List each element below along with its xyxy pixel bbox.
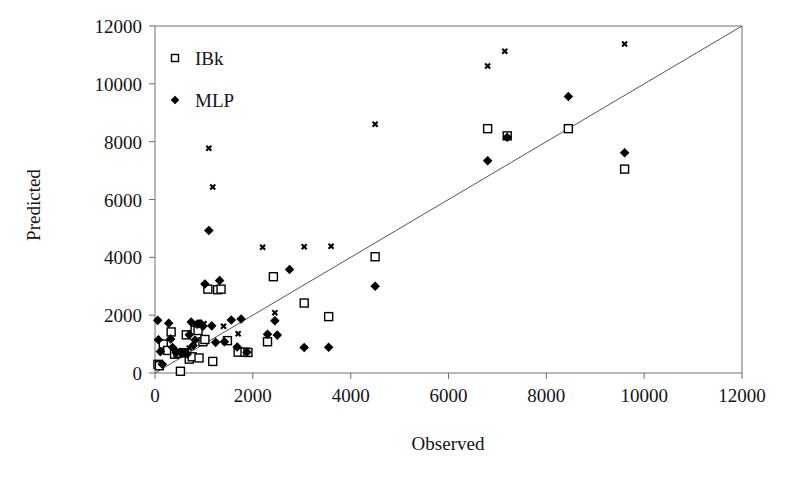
x-tick-label: 4000 [332, 385, 370, 406]
data-point-open-square [176, 367, 184, 375]
x-tick-label: 8000 [527, 385, 565, 406]
legend-label-MLP: MLP [195, 90, 234, 111]
y-tick-label: 2000 [104, 305, 142, 326]
y-tick-label: 6000 [104, 190, 142, 211]
data-point-open-square [195, 354, 203, 362]
data-point-open-square [484, 125, 492, 133]
legend-label-IBk: IBk [195, 48, 224, 69]
x-tick-label: 12000 [718, 385, 766, 406]
data-point-open-square [201, 335, 209, 343]
data-point-open-square [325, 313, 333, 321]
x-tick-label: 0 [150, 385, 160, 406]
legend-marker-IBk [172, 55, 179, 62]
plot-background [0, 0, 812, 482]
x-tick-label: 2000 [234, 385, 272, 406]
data-point-open-square [209, 357, 217, 365]
data-point-open-square [269, 273, 277, 281]
data-point-open-square [371, 253, 379, 261]
y-tick-label: 4000 [104, 247, 142, 268]
y-tick-label: 12000 [95, 16, 143, 37]
data-point-open-square [300, 299, 308, 307]
data-point-open-square [621, 165, 629, 173]
y-tick-label: 10000 [95, 74, 143, 95]
y-tick-label: 8000 [104, 132, 142, 153]
y-tick-label: 0 [133, 363, 143, 384]
x-tick-label: 10000 [620, 385, 668, 406]
y-axis-title: Predicted [23, 169, 44, 241]
x-axis-title: Observed [412, 433, 485, 454]
x-tick-label: 6000 [430, 385, 468, 406]
data-point-open-square [217, 285, 225, 293]
data-point-open-square [564, 125, 572, 133]
scatter-plot-figure: 0200040006000800010000120000200040006000… [0, 0, 812, 482]
scatter-plot-canvas: 0200040006000800010000120000200040006000… [0, 0, 812, 482]
